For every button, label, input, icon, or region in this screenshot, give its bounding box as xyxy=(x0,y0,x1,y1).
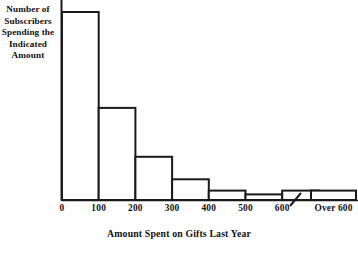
x-axis-tick-label: 200 xyxy=(128,203,143,213)
histogram-bar xyxy=(135,157,172,200)
histogram-bar-over-600 xyxy=(311,191,356,200)
x-axis-tick-label: 600 xyxy=(275,203,290,213)
x-axis-tick-label: 400 xyxy=(201,203,216,213)
histogram-bar xyxy=(99,108,136,200)
histogram-figure: Number of Subscribers Spending the Indic… xyxy=(0,0,358,253)
x-axis-tick-label: 0 xyxy=(60,203,65,213)
x-axis-tick-label: 100 xyxy=(91,203,106,213)
over-600-label: Over 600 xyxy=(314,203,352,213)
histogram-bar xyxy=(172,179,209,200)
histogram-bar xyxy=(62,12,99,200)
histogram-bar xyxy=(209,191,246,200)
plot-area xyxy=(0,0,358,253)
x-axis-tick-label: 500 xyxy=(238,203,253,213)
bars xyxy=(62,12,356,200)
x-axis-title: Amount Spent on Gifts Last Year xyxy=(0,228,358,239)
histogram-bar xyxy=(246,194,283,200)
x-axis-tick-label: 300 xyxy=(165,203,180,213)
histogram-svg xyxy=(0,0,358,253)
